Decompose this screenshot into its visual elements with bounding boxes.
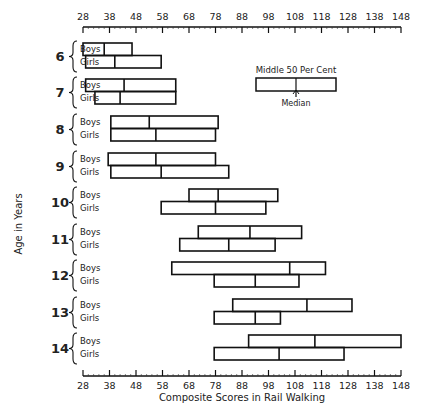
tick-label: 98 bbox=[262, 380, 274, 391]
tick-label: 138 bbox=[365, 11, 383, 22]
tick-label: 108 bbox=[286, 11, 304, 22]
boys-label: Boys bbox=[80, 227, 101, 237]
tick-label: 128 bbox=[339, 11, 357, 22]
tick-label: 28 bbox=[77, 380, 89, 391]
brace-icon bbox=[69, 224, 77, 255]
girls-range-box bbox=[214, 275, 299, 288]
tick-label: 58 bbox=[156, 11, 168, 22]
age-row-13: 13BoysGirls bbox=[51, 297, 352, 328]
boys-label: Boys bbox=[80, 263, 101, 273]
girls-label: Girls bbox=[80, 240, 100, 250]
tick-label: 148 bbox=[392, 380, 410, 391]
boys-range-box bbox=[233, 299, 352, 312]
girls-range-box bbox=[95, 92, 176, 105]
tick-label: 48 bbox=[130, 380, 142, 391]
tick-label: 68 bbox=[183, 11, 195, 22]
rail-walking-chart: 2838485868788898108118128138148 28384858… bbox=[0, 0, 426, 416]
age-row-8: 8BoysGirls bbox=[55, 114, 218, 145]
brace-icon bbox=[69, 151, 77, 182]
boys-range-box bbox=[249, 335, 401, 348]
age-row-14: 14BoysGirls bbox=[51, 333, 401, 364]
boys-label: Boys bbox=[80, 336, 101, 346]
age-rows: 6BoysGirls7BoysGirls8BoysGirls9BoysGirls… bbox=[51, 41, 401, 364]
tick-label: 88 bbox=[236, 380, 248, 391]
tick-label: 108 bbox=[286, 380, 304, 391]
legend-title: Middle 50 Per Cent bbox=[256, 65, 337, 75]
age-label: 13 bbox=[51, 305, 69, 320]
age-label: 14 bbox=[51, 341, 69, 356]
tick-label: 58 bbox=[156, 380, 168, 391]
tick-label: 48 bbox=[130, 11, 142, 22]
tick-label: 88 bbox=[236, 11, 248, 22]
age-label: 8 bbox=[55, 122, 64, 137]
age-row-9: 9BoysGirls bbox=[55, 151, 228, 182]
legend: Middle 50 Per CentMedian bbox=[256, 65, 337, 108]
girls-label: Girls bbox=[80, 167, 100, 177]
girls-label: Girls bbox=[80, 203, 100, 213]
age-label: 12 bbox=[51, 268, 69, 283]
age-row-10: 10BoysGirls bbox=[51, 187, 278, 218]
tick-label: 68 bbox=[183, 380, 195, 391]
girls-label: Girls bbox=[80, 57, 100, 67]
girls-label: Girls bbox=[80, 313, 100, 323]
top-axis: 2838485868788898108118128138148 bbox=[77, 11, 410, 33]
brace-icon bbox=[69, 333, 77, 364]
brace-icon bbox=[69, 187, 77, 218]
y-axis-label: Age in Years bbox=[13, 193, 24, 254]
girls-range-box bbox=[161, 202, 266, 215]
bottom-axis: 2838485868788898108118128138148 bbox=[77, 370, 410, 391]
boys-label: Boys bbox=[80, 300, 101, 310]
tick-label: 128 bbox=[339, 380, 357, 391]
age-label: 9 bbox=[55, 159, 64, 174]
age-label: 7 bbox=[55, 85, 64, 100]
tick-label: 118 bbox=[312, 11, 330, 22]
brace-icon bbox=[69, 77, 77, 108]
age-row-12: 12BoysGirls bbox=[51, 260, 326, 291]
girls-label: Girls bbox=[80, 130, 100, 140]
tick-label: 28 bbox=[77, 11, 89, 22]
boys-label: Boys bbox=[80, 190, 101, 200]
boys-range-box bbox=[111, 116, 218, 129]
brace-icon bbox=[69, 260, 77, 291]
age-label: 10 bbox=[51, 195, 69, 210]
tick-label: 78 bbox=[209, 11, 221, 22]
boys-range-box bbox=[172, 262, 326, 275]
tick-label: 138 bbox=[365, 380, 383, 391]
girls-range-box bbox=[111, 129, 216, 142]
legend-median-label: Median bbox=[281, 99, 310, 108]
girls-range-box bbox=[180, 239, 275, 252]
tick-label: 38 bbox=[103, 11, 115, 22]
girls-range-box bbox=[111, 166, 229, 179]
age-label: 11 bbox=[51, 232, 69, 247]
age-row-11: 11BoysGirls bbox=[51, 224, 302, 255]
x-axis-label: Composite Scores in Rail Walking bbox=[159, 392, 325, 403]
girls-range-box bbox=[214, 312, 280, 325]
tick-label: 148 bbox=[392, 11, 410, 22]
boys-label: Boys bbox=[80, 80, 101, 90]
tick-label: 98 bbox=[262, 11, 274, 22]
brace-icon bbox=[69, 114, 77, 145]
boys-label: Boys bbox=[80, 154, 101, 164]
girls-label: Girls bbox=[80, 93, 100, 103]
boys-label: Boys bbox=[80, 117, 101, 127]
age-row-6: 6BoysGirls bbox=[55, 41, 161, 72]
boys-range-box bbox=[108, 153, 215, 166]
tick-label: 118 bbox=[312, 380, 330, 391]
girls-label: Girls bbox=[80, 276, 100, 286]
brace-icon bbox=[69, 297, 77, 328]
tick-label: 78 bbox=[209, 380, 221, 391]
tick-label: 38 bbox=[103, 380, 115, 391]
age-row-7: 7BoysGirls bbox=[55, 77, 175, 108]
boys-range-box bbox=[189, 189, 278, 202]
brace-icon bbox=[69, 41, 77, 72]
age-label: 6 bbox=[55, 49, 64, 64]
girls-label: Girls bbox=[80, 349, 100, 359]
